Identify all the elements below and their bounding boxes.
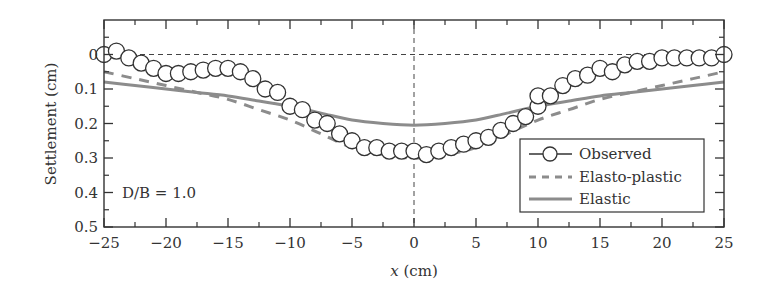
legend-label-elastic: Elastic bbox=[579, 190, 631, 208]
x-tick-label: −20 bbox=[150, 234, 182, 252]
observed-point-marker bbox=[270, 84, 286, 100]
legend-observed-marker-icon bbox=[543, 147, 557, 161]
y-tick-label: 0 bbox=[88, 46, 98, 64]
settlement-chart: −25−20−15−10−50510152025 00.10.20.30.40.… bbox=[0, 0, 769, 298]
x-tick-label: 10 bbox=[528, 234, 547, 252]
y-tick-label: 0.5 bbox=[74, 218, 98, 236]
y-tick-label: 0.2 bbox=[74, 115, 98, 133]
x-axis-title-unit: (cm) bbox=[399, 262, 438, 280]
x-tick-label: 20 bbox=[652, 234, 671, 252]
legend: Observed Elasto-plastic Elastic bbox=[520, 139, 704, 212]
y-axis-title: Settlement (cm) bbox=[42, 63, 60, 186]
x-tick-label: −15 bbox=[212, 234, 244, 252]
x-tick-label: 0 bbox=[409, 234, 419, 252]
legend-label-observed: Observed bbox=[579, 145, 652, 163]
legend-label-elasto-plastic: Elasto-plastic bbox=[579, 168, 682, 186]
y-tick-label: 0.4 bbox=[74, 184, 98, 202]
legend-item-observed: Observed bbox=[529, 145, 652, 163]
x-tick-label: 5 bbox=[471, 234, 481, 252]
x-tick-label: 15 bbox=[590, 234, 609, 252]
x-tick-label: −10 bbox=[274, 234, 306, 252]
y-tick-label: 0.3 bbox=[74, 149, 98, 167]
ratio-annotation: D/B = 1.0 bbox=[122, 184, 196, 202]
x-axis-title: x (cm) bbox=[390, 262, 438, 280]
y-tick-label: 0.1 bbox=[74, 80, 98, 98]
x-tick-label: −25 bbox=[88, 234, 120, 252]
x-tick-label: −5 bbox=[341, 234, 363, 252]
x-tick-label: 25 bbox=[714, 234, 733, 252]
